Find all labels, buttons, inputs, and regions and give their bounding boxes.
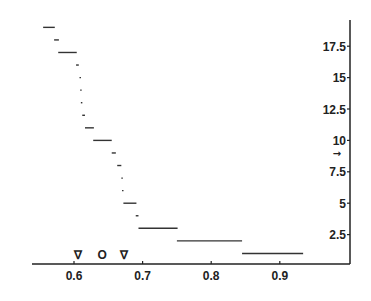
y-tick-label: 15 [333, 71, 347, 85]
y-tick-label: 5 [339, 197, 346, 211]
annotations: ∇O∇→ [73, 148, 341, 262]
y-ticks: 2.557.51012.51517.5 [323, 40, 350, 242]
arrow-right-icon: → [333, 148, 341, 159]
y-tick-label: 17.5 [323, 40, 347, 54]
step-chart: 0.60.70.80.9 2.557.51012.51517.5 ∇O∇→ [0, 0, 371, 301]
y-tick-label: 7.5 [329, 165, 346, 179]
y-tick-label: 10 [333, 134, 347, 148]
circle-marker: O [97, 248, 106, 262]
x-tick-label: 0.7 [134, 269, 151, 283]
y-tick-label: 12.5 [323, 103, 347, 117]
y-tick-label: 2.5 [329, 228, 346, 242]
x-tick-label: 0.8 [203, 269, 220, 283]
x-tick-label: 0.9 [271, 269, 288, 283]
triangle-marker: ∇ [73, 248, 83, 262]
x-tick-label: 0.6 [66, 269, 83, 283]
triangle-marker: ∇ [119, 248, 129, 262]
data-segments [43, 27, 303, 253]
axes [32, 20, 350, 264]
